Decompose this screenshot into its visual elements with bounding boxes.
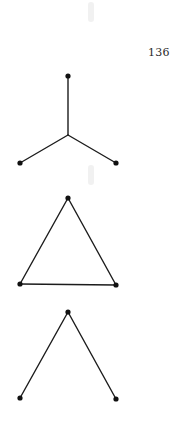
- vertex: [113, 282, 118, 287]
- vertex: [65, 73, 70, 78]
- edge: [68, 135, 116, 163]
- vertex: [65, 309, 70, 314]
- triangle-graph: [17, 195, 118, 287]
- edge: [20, 312, 68, 398]
- vertex: [17, 160, 22, 165]
- edge: [68, 312, 116, 399]
- path-graph: [17, 309, 118, 401]
- edge: [20, 198, 68, 284]
- star-graph: [17, 73, 118, 165]
- vertex: [17, 395, 22, 400]
- vertex: [65, 195, 70, 200]
- vertex: [113, 396, 118, 401]
- edge: [68, 198, 116, 285]
- graph-figures: [0, 0, 183, 432]
- vertex: [17, 281, 22, 286]
- vertex: [113, 160, 118, 165]
- edge: [20, 284, 116, 285]
- edge: [20, 135, 68, 163]
